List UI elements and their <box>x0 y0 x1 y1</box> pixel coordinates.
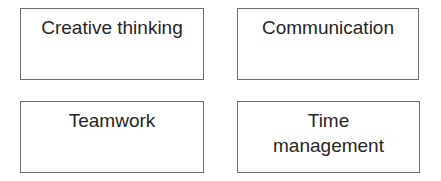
skill-box-communication: Communication <box>237 8 419 80</box>
skill-label: Communication <box>262 15 394 40</box>
skill-box-creative-thinking: Creative thinking <box>20 8 204 80</box>
skill-box-time-management: Time management <box>237 101 420 173</box>
skill-label-line-2: management <box>273 133 384 158</box>
skill-box-teamwork: Teamwork <box>20 101 204 173</box>
skill-label: Teamwork <box>69 108 156 133</box>
skill-label-line-1: Time <box>308 108 350 133</box>
skill-label: Creative thinking <box>41 15 183 40</box>
